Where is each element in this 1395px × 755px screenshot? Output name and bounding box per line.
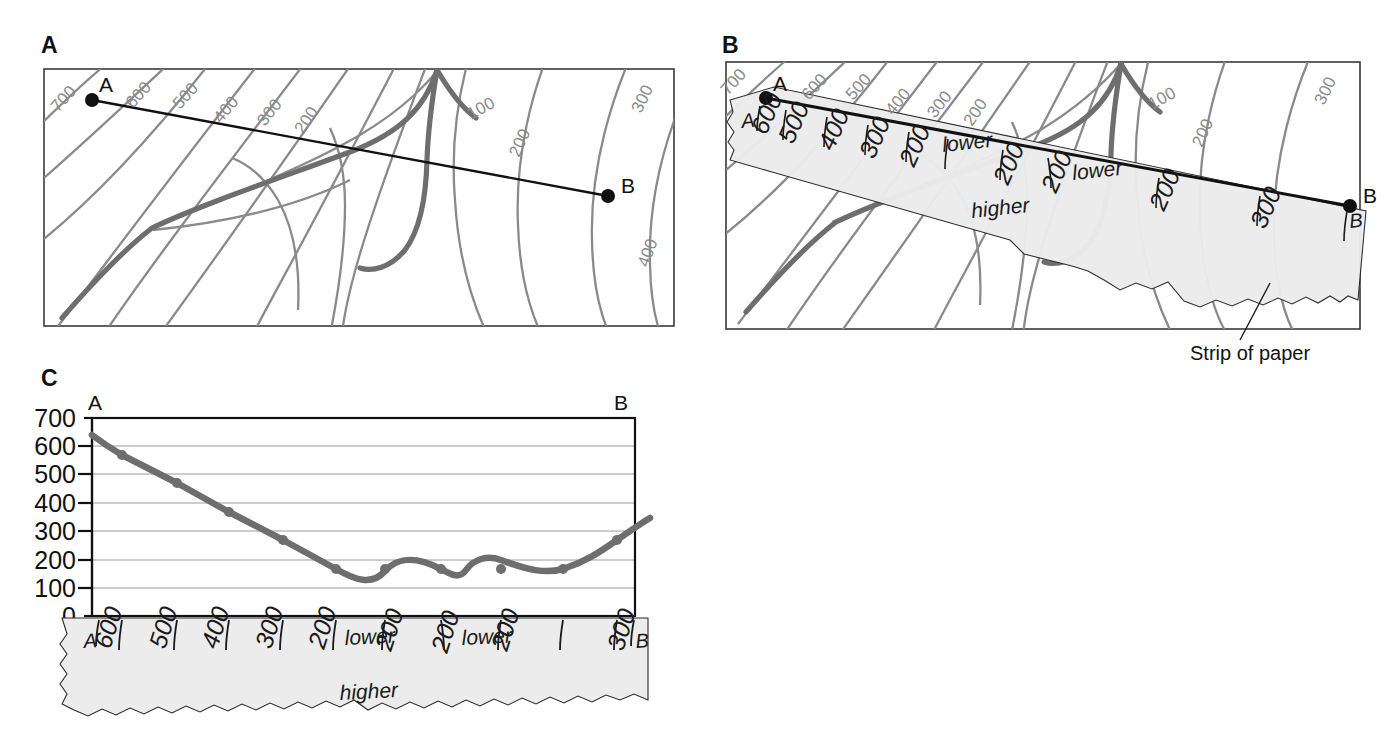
panel-c-plot-border xyxy=(92,418,635,616)
strip-mark-b: B xyxy=(635,629,650,652)
y-label-300: 300 xyxy=(34,517,76,545)
y-label-500: 500 xyxy=(34,460,76,488)
strip-mark-b: B xyxy=(1348,209,1364,232)
y-label-700: 700 xyxy=(34,404,76,432)
panel-c-figure: 700 600 500 400 300 200 100 0 A B xyxy=(0,0,700,755)
panel-c-y-axis-labels: 700 600 500 400 300 200 100 0 xyxy=(34,404,76,630)
panel-b-figure: A B 700 600 500 400 300 200 100 200 300 … xyxy=(700,0,1395,390)
panel-c-label-b: B xyxy=(614,391,628,414)
panel-c-label-a: A xyxy=(88,391,102,414)
panel-c-profile-curve xyxy=(92,435,650,580)
strip-note-higher: higher xyxy=(339,678,400,704)
panel-c-gridlines xyxy=(92,446,635,588)
y-label-600: 600 xyxy=(34,432,76,460)
y-label-200: 200 xyxy=(34,546,76,574)
strip-caption: Strip of paper xyxy=(1190,342,1310,364)
y-label-400: 400 xyxy=(34,489,76,517)
panel-c-y-ticks xyxy=(78,418,92,616)
y-label-100: 100 xyxy=(34,574,76,602)
panel-c-data-points xyxy=(117,450,622,574)
panel-b-label-a: A xyxy=(773,72,787,95)
panel-b-label-b: B xyxy=(1363,184,1377,207)
